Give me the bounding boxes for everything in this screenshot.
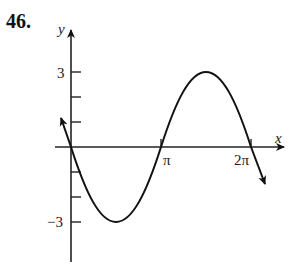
x-tick-label-pi: π	[163, 152, 171, 168]
curve-right-arrow	[251, 147, 265, 184]
x-ticks	[161, 139, 251, 147]
sine-graph: y x 3 −3 π 2π	[0, 0, 291, 273]
y-tick-label-neg3: −3	[47, 214, 63, 230]
curve-left-arrow	[61, 118, 71, 147]
y-tick-label-3: 3	[57, 65, 65, 81]
y-axis-label: y	[56, 21, 65, 37]
x-axis-label: x	[274, 130, 282, 146]
x-tick-label-2pi: 2π	[234, 152, 250, 168]
